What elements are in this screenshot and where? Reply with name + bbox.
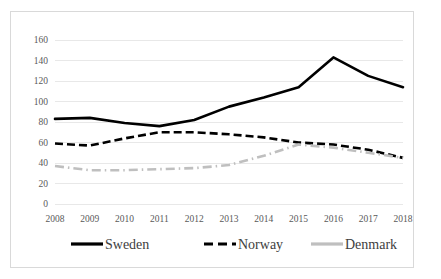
- chart-container: 020406080100120140160 200820092010201120…: [10, 11, 414, 268]
- legend-label-norway[interactable]: Norway: [238, 237, 283, 252]
- series-line-denmark: [55, 145, 403, 171]
- y-axis-tick-label: 40: [39, 158, 49, 168]
- y-axis-tick-label: 20: [39, 179, 49, 189]
- chart-legend: SwedenNorwayDenmark: [71, 237, 397, 252]
- series-line-sweden: [55, 57, 403, 126]
- legend-label-sweden[interactable]: Sweden: [105, 237, 149, 252]
- x-axis-tick-label: 2013: [220, 214, 239, 224]
- y-axis-tick-label: 60: [39, 138, 49, 148]
- x-axis-tick-label: 2016: [324, 214, 343, 224]
- gridlines-group: [55, 40, 403, 204]
- y-axis-tick-label: 80: [39, 117, 49, 127]
- y-axis-tick-label: 120: [34, 76, 49, 86]
- x-axis-tick-label: 2015: [289, 214, 308, 224]
- x-axis-tick-labels: 2008200920102011201220132014201520162017…: [46, 214, 413, 224]
- x-axis-tick-label: 2008: [46, 214, 65, 224]
- y-axis-tick-label: 100: [34, 97, 49, 107]
- legend-label-denmark[interactable]: Denmark: [345, 237, 397, 252]
- x-axis-tick-label: 2012: [185, 214, 204, 224]
- series-group: [55, 57, 403, 170]
- y-axis-tick-label: 0: [43, 199, 48, 209]
- x-axis-tick-label: 2009: [80, 214, 99, 224]
- x-axis-tick-label: 2017: [359, 214, 378, 224]
- line-chart: 020406080100120140160 200820092010201120…: [11, 12, 415, 269]
- y-axis-tick-labels: 020406080100120140160: [34, 35, 49, 209]
- x-axis-tick-label: 2014: [254, 214, 273, 224]
- y-axis-tick-label: 140: [34, 56, 49, 66]
- x-axis-tick-label: 2011: [150, 214, 169, 224]
- series-line-norway: [55, 132, 403, 158]
- y-axis-tick-label: 160: [34, 35, 49, 45]
- x-axis-tick-label: 2010: [115, 214, 134, 224]
- x-axis-tick-label: 2018: [394, 214, 413, 224]
